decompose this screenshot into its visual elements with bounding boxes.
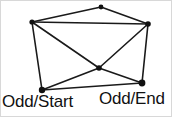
graph-figure: Odd/Start Odd/End	[0, 0, 172, 117]
vertex-label-odd-end: Odd/End	[99, 90, 165, 107]
graph-vertex-bottom-right	[139, 80, 146, 87]
graph-edge-top-right-to-center	[99, 24, 148, 68]
graph-vertex-top-right	[145, 21, 151, 27]
graph-edge-top-left-to-top	[32, 7, 101, 22]
graph-edge-top-to-top-right	[101, 7, 148, 24]
graph-edge-top-left-to-bottom-left	[32, 22, 42, 90]
graph-vertex-top-left	[29, 19, 34, 24]
graph-vertex-center	[96, 65, 102, 71]
graph-vertex-top	[99, 5, 104, 10]
graph-edge-top-left-to-center	[32, 22, 99, 68]
graph-edge-top-left-to-top-right	[32, 22, 148, 24]
graph-edge-center-to-bottom-right	[99, 68, 142, 83]
vertex-label-odd-start: Odd/Start	[2, 93, 73, 110]
edge-layer	[32, 7, 148, 90]
graph-edge-top-right-to-bottom-right	[142, 24, 148, 83]
